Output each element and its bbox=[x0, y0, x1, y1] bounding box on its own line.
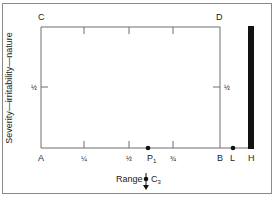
h-bar bbox=[248, 26, 254, 149]
tick-quarter: ¼ bbox=[81, 155, 87, 162]
p1-label: P1 bbox=[147, 154, 156, 166]
corner-b: B bbox=[217, 154, 223, 163]
c3-dot bbox=[144, 177, 149, 182]
corner-c: C bbox=[38, 13, 45, 22]
l-dot bbox=[231, 146, 236, 151]
tick-three-quarter: ¾ bbox=[170, 155, 176, 162]
c3-label: C3 bbox=[151, 175, 161, 187]
tick-half: ½ bbox=[126, 155, 132, 162]
y-axis-label: Severity—irritability—nature bbox=[4, 32, 14, 144]
range-label: Range bbox=[116, 175, 143, 184]
corner-d: D bbox=[216, 13, 223, 22]
p1-dot bbox=[146, 146, 151, 151]
corner-a: A bbox=[38, 154, 44, 163]
y-half-right: ½ bbox=[224, 84, 230, 91]
h-label: H bbox=[248, 154, 255, 163]
l-label: L bbox=[230, 154, 235, 163]
diagram-graphics bbox=[0, 0, 277, 200]
y-half-left: ½ bbox=[31, 84, 37, 91]
down-arrow-icon bbox=[143, 185, 149, 190]
